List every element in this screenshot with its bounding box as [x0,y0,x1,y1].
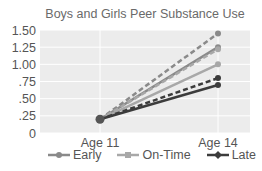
y-tick-label: .25 [19,109,36,123]
legend: EarlyOn-TimeLate [48,148,262,162]
y-tick-label: 0 [29,127,36,141]
data-point-marker [215,82,221,88]
data-point-marker [96,115,105,124]
y-tick-label: 1.50 [12,24,36,38]
legend-swatch-icon [207,150,229,160]
data-point-marker [215,30,221,36]
legend-item: Late [207,148,256,162]
legend-label: On-Time [142,148,190,162]
data-point-marker [215,75,221,81]
chart: Boys and Girls Peer Substance Use 0.25.5… [0,0,262,171]
y-tick-label: 1.00 [12,58,36,72]
y-tick-label: .75 [19,75,36,89]
plot-area: 0.25.50.751.001.251.50Age 11Age 14 [0,0,262,171]
legend-label: Late [232,148,256,162]
legend-swatch-icon [48,150,70,160]
data-point-marker [215,46,221,52]
legend-item: On-Time [117,148,190,162]
y-tick-label: 1.25 [12,41,36,55]
legend-swatch-icon [117,150,139,160]
legend-label: Early [73,148,101,162]
y-tick-label: .50 [19,92,36,106]
data-point-marker [215,61,221,67]
legend-item: Early [48,148,101,162]
